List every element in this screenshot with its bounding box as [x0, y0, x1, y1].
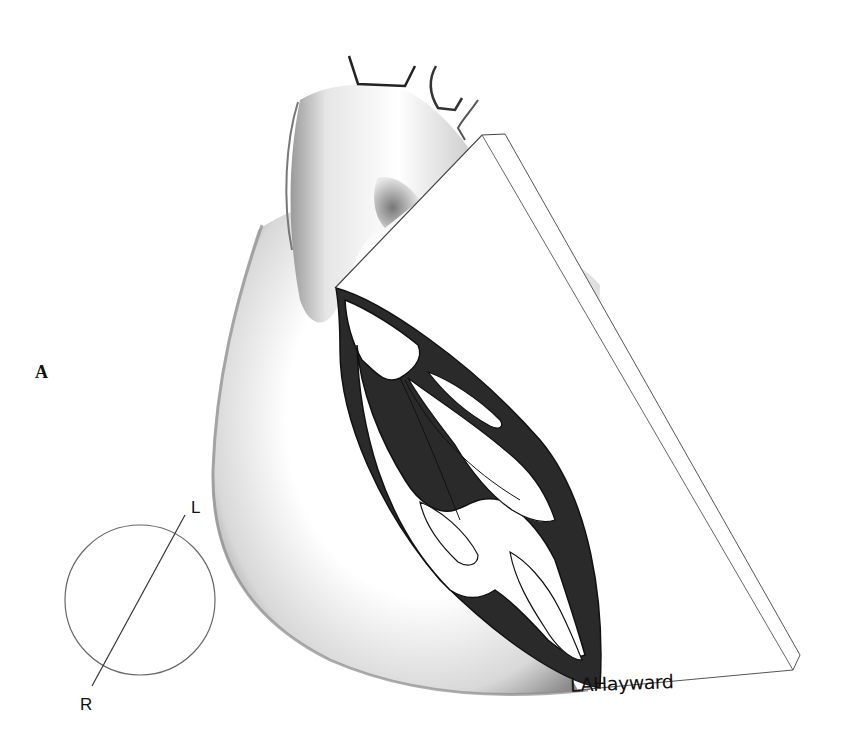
- heart-illustration: [0, 0, 841, 745]
- artist-signature: LAHayward: [570, 670, 674, 696]
- orientation-axis-line: [92, 515, 185, 686]
- orientation-right-label: R: [80, 695, 92, 715]
- orientation-left-label: L: [191, 498, 200, 518]
- left-subclavian-artery: [458, 100, 478, 140]
- orientation-circle: [65, 525, 215, 675]
- panel-label: A: [35, 362, 48, 383]
- left-carotid-artery: [431, 66, 462, 110]
- brachiocephalic-artery: [349, 56, 415, 86]
